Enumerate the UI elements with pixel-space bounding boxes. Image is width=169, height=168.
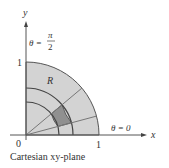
y-axis-label: y (22, 7, 28, 18)
polar-region-diagram: y x 0 1 1 R θ = 0 θ = π 2 (0, 0, 169, 168)
origin-label: 0 (16, 138, 21, 149)
caption: Cartesian xy-plane (10, 151, 85, 162)
region-label: R (46, 75, 53, 86)
x-axis-label: x (150, 129, 156, 140)
theta-zero-label: θ = 0 (111, 123, 131, 133)
x-tick-label: 1 (96, 139, 101, 150)
theta-half-pi-prefix: θ = (29, 38, 42, 48)
y-tick-label: 1 (17, 57, 22, 68)
y-axis-arrow-icon (24, 21, 28, 27)
theta-half-pi-denominator: 2 (48, 42, 53, 52)
theta-half-pi-numerator: π (48, 30, 53, 40)
x-axis-arrow-icon (141, 133, 147, 137)
